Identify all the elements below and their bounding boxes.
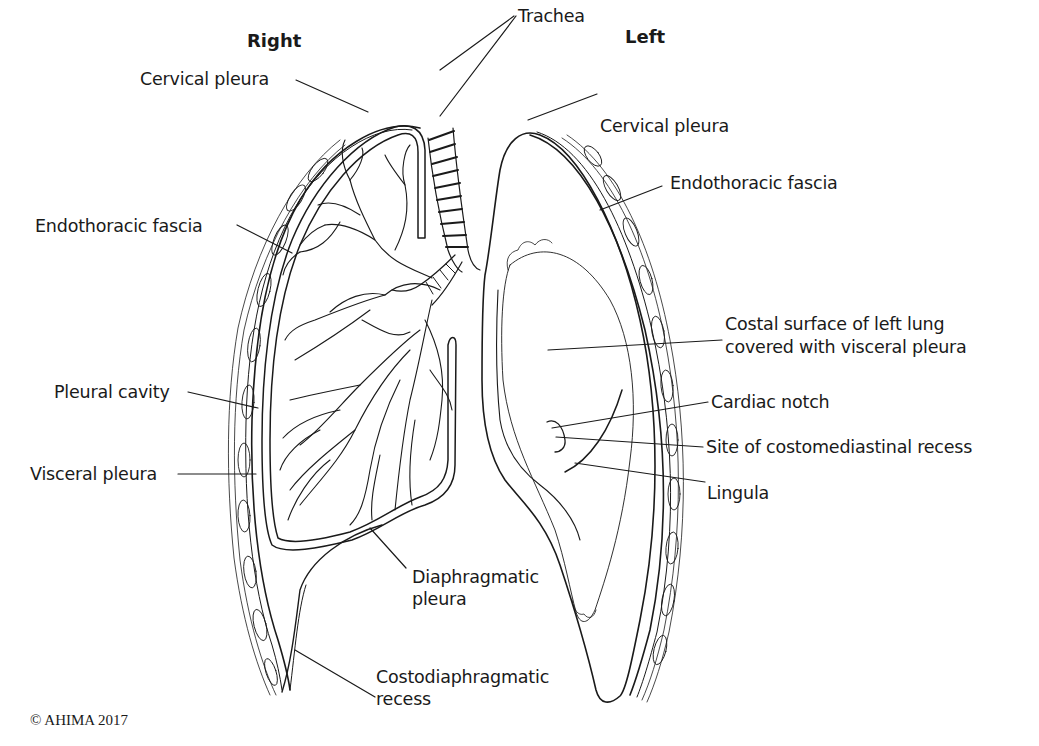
heading-right: Right	[247, 30, 301, 51]
label-diaphragmatic-pleura-2: pleura	[412, 588, 467, 610]
right-lung	[262, 126, 462, 550]
label-costomediastinal-recess: Site of costomediastinal recess	[706, 436, 972, 458]
label-cardiac-notch: Cardiac notch	[711, 391, 829, 413]
label-right-cervical-pleura: Cervical pleura	[140, 68, 269, 90]
trachea	[428, 128, 480, 272]
right-chest-wall	[228, 126, 420, 695]
heading-left: Left	[625, 26, 665, 47]
label-visceral-pleura: Visceral pleura	[30, 463, 157, 485]
label-costal-surface-2: covered with visceral pleura	[725, 336, 967, 358]
label-left-cervical-pleura: Cervical pleura	[600, 115, 729, 137]
label-trachea: Trachea	[518, 5, 585, 27]
label-diaphragmatic-pleura-1: Diaphragmatic	[412, 566, 539, 588]
lung-illustration	[0, 0, 1039, 746]
label-left-endothoracic-fascia: Endothoracic fascia	[670, 172, 838, 194]
leader-lines-left-side	[440, 16, 722, 482]
label-right-endothoracic-fascia: Endothoracic fascia	[35, 215, 203, 237]
pleura-diagram: Right Left Cervical pleura Endothoracic …	[0, 0, 1039, 746]
label-pleural-cavity: Pleural cavity	[54, 381, 170, 403]
bronchial-tree	[280, 140, 452, 525]
leader-lines-left	[445, 16, 518, 56]
label-lingula: Lingula	[707, 482, 769, 504]
copyright-notice: © AHIMA 2017	[30, 712, 128, 729]
label-costodiaphragmatic-recess-1: Costodiaphragmatic	[376, 666, 549, 688]
label-costodiaphragmatic-recess-2: recess	[376, 688, 431, 710]
label-costal-surface-1: Costal surface of left lung	[725, 313, 944, 335]
